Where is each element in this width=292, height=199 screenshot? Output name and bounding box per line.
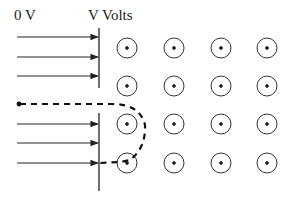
b-field-row-4 <box>117 153 277 173</box>
magnetic-field-grid <box>117 38 277 173</box>
b-field-row-2 <box>117 76 277 96</box>
lower-field-arrows <box>17 124 98 163</box>
label-v-volts: V Volts <box>88 7 133 23</box>
b-field-row-1 <box>117 38 277 58</box>
upper-field-arrows <box>17 37 98 76</box>
label-zero-volts: 0 V <box>14 7 36 23</box>
particle-trajectory <box>17 102 145 163</box>
diagram-canvas: 0 V V Volts <box>0 0 292 199</box>
